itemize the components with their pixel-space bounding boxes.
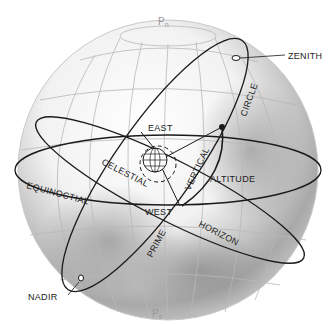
- sphere: [18, 20, 318, 320]
- west-label: WEST: [145, 207, 172, 217]
- celestial-sphere-diagram: Pn Ps ZENITH NADIR EAST WEST ALTITUDE CI…: [0, 0, 336, 325]
- pole-north-label: Pn: [158, 16, 169, 28]
- altitude-label: ALTITUDE: [210, 174, 255, 184]
- zenith-label: ZENITH: [288, 51, 322, 61]
- nadir-label: NADIR: [28, 292, 58, 302]
- star-point: [219, 124, 225, 130]
- east-label: EAST: [148, 123, 173, 133]
